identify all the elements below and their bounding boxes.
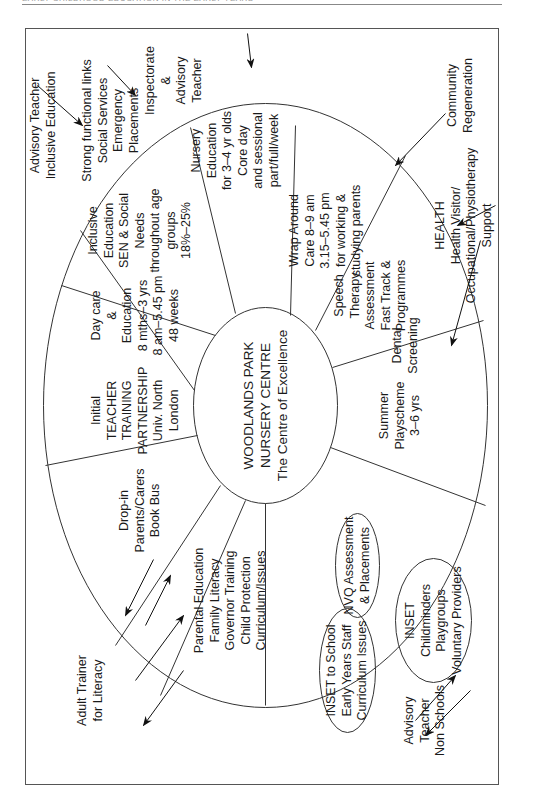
segment-drop-in: Drop-inParents/CarersBook Bus: [117, 468, 164, 552]
header-divider: [22, 4, 502, 5]
page-header: EARLY CHILDHOOD EDUCATION IN THE EARLY Y…: [22, 0, 254, 3]
external-health: HEALTHHealth Visitor/Occupational/Physio…: [432, 147, 494, 303]
segment-day-care: Day care&Education8 mths–3 yrs8 am–5.45 …: [89, 275, 182, 355]
segment-dental-screening: DentalScreening: [390, 317, 421, 373]
external-social-services: Strong functional linksSocial ServicesEm…: [79, 59, 141, 181]
segment-teacher-training: InitialTEACHERTRAININGPARTNERSHIPUniv. N…: [89, 366, 182, 454]
center-line-3: The Centre of Excellence: [274, 329, 291, 481]
oval-nvq: NVQ Assessment& Placements: [342, 516, 373, 614]
segment-inclusive-education: InclusiveEducationSEN & SocialNeedsthrou…: [86, 188, 195, 272]
external-inspectorate: Inspectorate&AdvisoryTeacher: [142, 46, 204, 115]
nursery-centre-diagram: WOODLANDS PARK NURSERY CENTRE The Centre…: [25, 28, 499, 785]
center-line-2: NURSERY CENTRE: [257, 329, 274, 481]
external-adult-trainer: Adult Trainerfor Literacy: [75, 655, 106, 726]
external-advisory-inclusive: Advisory TeacherInclusive Education: [28, 71, 59, 179]
segment-parental-education: Parental EducationFamily LiteracyGoverno…: [191, 547, 269, 653]
center-label: WOODLANDS PARK NURSERY CENTRE The Centre…: [240, 329, 291, 481]
center-line-1: WOODLANDS PARK: [240, 329, 257, 481]
segment-nursery-education: NurseryEducationfor 3–4 yr oldsCore daya…: [189, 110, 282, 189]
oval-inset-school: INSET to SchoolEarly Years StaffCurricul…: [324, 620, 371, 720]
external-community: CommunityRegeneration: [445, 57, 476, 132]
oval-inset-childminders: INSETChildmindersPlaygroupsVoluntary Pro…: [402, 566, 464, 674]
external-advisory-non-schools: AdvisoryTeacherNon Schools: [402, 685, 449, 756]
segment-summer-playscheme: SummerPlayscheme3–6 yrs: [377, 381, 424, 449]
